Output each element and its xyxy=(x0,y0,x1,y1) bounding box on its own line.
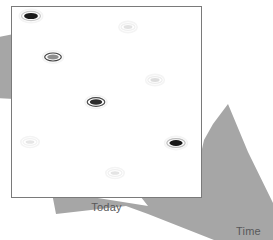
scatter-marker xyxy=(146,74,165,85)
time-axis-label: Time xyxy=(236,226,261,237)
scatter-marker xyxy=(19,9,42,23)
scatter-marker xyxy=(106,168,124,179)
scatter-marker xyxy=(43,51,64,63)
figure-canvas: Today Time xyxy=(0,0,273,240)
scatter-marker xyxy=(85,96,107,109)
scatter-marker xyxy=(165,136,188,149)
scatter-marker xyxy=(119,21,137,32)
scatter-marker xyxy=(21,137,39,148)
today-axis-label: Today xyxy=(0,202,213,213)
